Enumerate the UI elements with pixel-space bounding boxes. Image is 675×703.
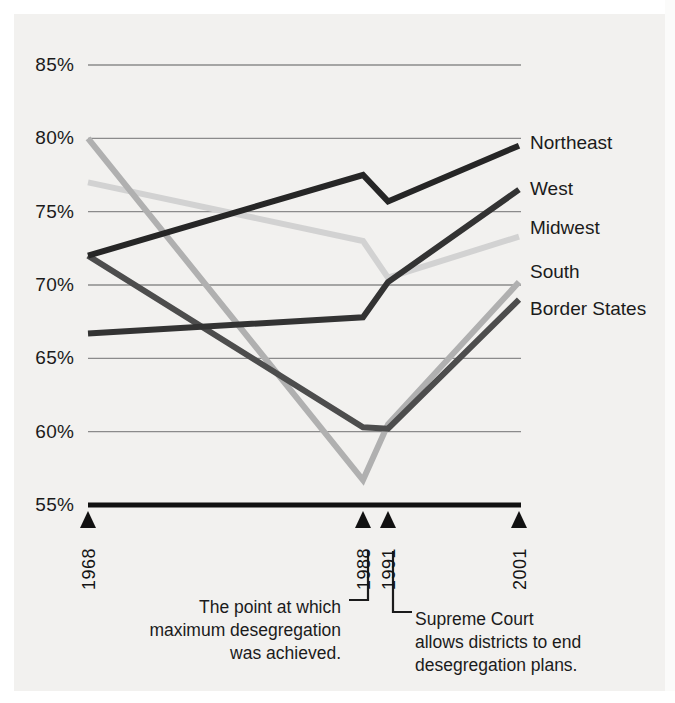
series-label-northeast: Northeast [530, 132, 612, 154]
series-line-midwest [88, 182, 519, 277]
y-tick-label-75%: 75% [12, 201, 74, 223]
x-tick-label-1991: 1991 [379, 548, 400, 590]
chart-page: 85%80%75%70%65%60%55% 1968198819912001 N… [0, 0, 675, 703]
series-lines-group [88, 138, 519, 480]
y-tick-label-85%: 85% [12, 54, 74, 76]
annotation-max-desegregation: The point at which maximum desegregation… [56, 596, 341, 665]
y-tick-label-65%: 65% [12, 347, 74, 369]
x-tick-marker-1991 [380, 511, 396, 528]
y-tick-label-60%: 60% [12, 421, 74, 443]
y-tick-label-80%: 80% [12, 127, 74, 149]
x-tick-marker-1988 [355, 511, 371, 528]
x-tick-label-1968: 1968 [79, 548, 100, 590]
x-tick-label-2001: 2001 [510, 548, 531, 590]
gridlines-group [88, 65, 521, 432]
series-line-northeast [88, 146, 519, 256]
series-label-south: South [530, 261, 580, 283]
annotation-supreme-court: Supreme Court allows districts to end de… [415, 608, 660, 677]
x-tick-markers-group [80, 511, 527, 528]
series-label-border-states: Border States [530, 298, 646, 320]
x-tick-label-1988: 1988 [354, 548, 375, 590]
series-label-midwest: Midwest [530, 217, 600, 239]
series-label-west: West [530, 178, 573, 200]
x-tick-marker-2001 [511, 511, 527, 528]
y-tick-label-55%: 55% [12, 494, 74, 516]
x-tick-marker-1968 [80, 511, 96, 528]
y-tick-label-70%: 70% [12, 274, 74, 296]
